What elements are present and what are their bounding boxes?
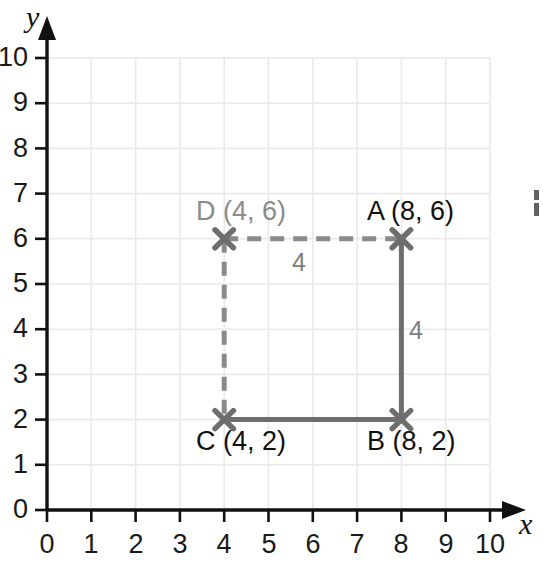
x-tick-5: 5 xyxy=(249,531,289,558)
point-label-a: A (8, 6) xyxy=(367,198,454,225)
y-tick-5: 5 xyxy=(0,270,28,297)
point-label-c: C (4, 2) xyxy=(196,428,286,455)
y-tick-2: 2 xyxy=(0,406,28,433)
x-tick-8: 8 xyxy=(381,531,421,558)
y-tick-6: 6 xyxy=(0,225,28,252)
x-tick-9: 9 xyxy=(426,531,466,558)
coordinate-plane-figure: y x 10 9 8 7 6 5 4 3 2 1 0 0 1 2 3 4 5 6… xyxy=(0,0,543,577)
point-label-d: D (4, 6) xyxy=(196,198,286,225)
dimension-label-right: 4 xyxy=(409,318,423,343)
page-edge-artifact-lower xyxy=(534,203,539,216)
dimension-label-top: 4 xyxy=(292,250,306,275)
x-tick-0: 0 xyxy=(27,531,67,558)
x-tick-4: 4 xyxy=(204,531,244,558)
y-tick-4: 4 xyxy=(0,315,28,342)
x-axis-label: x xyxy=(519,509,532,539)
y-tick-3: 3 xyxy=(0,361,28,388)
plot-canvas xyxy=(0,0,543,577)
y-tick-0: 0 xyxy=(0,496,28,523)
y-axis-label: y xyxy=(26,2,39,32)
x-axis-ticks xyxy=(47,510,490,522)
y-tick-7: 7 xyxy=(0,180,28,207)
x-tick-10: 10 xyxy=(470,531,510,558)
y-tick-8: 8 xyxy=(0,135,28,162)
y-tick-10: 10 xyxy=(0,44,28,71)
x-tick-1: 1 xyxy=(71,531,111,558)
y-tick-9: 9 xyxy=(0,89,28,116)
y-tick-1: 1 xyxy=(0,451,28,478)
page-edge-artifact-upper xyxy=(534,190,539,200)
point-label-b: B (8, 2) xyxy=(367,428,456,455)
x-tick-7: 7 xyxy=(337,531,377,558)
x-tick-6: 6 xyxy=(293,531,333,558)
x-tick-3: 3 xyxy=(160,531,200,558)
y-axis-arrowhead xyxy=(38,16,56,40)
y-axis-ticks xyxy=(35,58,47,510)
x-tick-2: 2 xyxy=(116,531,156,558)
